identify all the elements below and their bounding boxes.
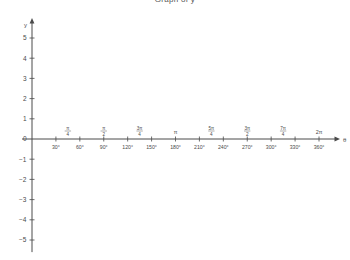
x-axis-degree-label: 210° <box>194 144 205 150</box>
x-axis-radian-denominator: 4 <box>282 132 285 137</box>
x-axis-degree-label: 300° <box>266 144 277 150</box>
y-axis-tick-label: 5 <box>23 34 27 41</box>
y-axis-tick-label: 3 <box>23 75 27 82</box>
x-axis-radian-numerator: 3π <box>137 126 143 131</box>
x-axis-radian-numerator: 7π <box>280 126 286 131</box>
y-axis-tick-label: 1 <box>23 115 27 122</box>
x-axis-degree-label: 240° <box>218 144 229 150</box>
y-axis-tick-label: −2 <box>19 176 27 183</box>
x-axis-radian-label: π <box>174 129 178 135</box>
x-axis-degree-label: 330° <box>290 144 301 150</box>
y-axis-tick-label: −5 <box>19 236 27 243</box>
x-axis-radian-denominator: 2 <box>102 132 105 137</box>
x-axis-degree-label: 270° <box>242 144 253 150</box>
x-axis-degree-label: 180° <box>170 144 181 150</box>
x-axis-degree-label: 360° <box>314 144 325 150</box>
x-axis-degree-label: 30° <box>52 144 60 150</box>
x-axis-radian-numerator: π <box>102 126 105 131</box>
x-axis-name-label: θ <box>343 137 347 143</box>
x-axis-degree-label: 90° <box>100 144 108 150</box>
x-axis-degree-label: 150° <box>146 144 157 150</box>
x-axis-radian-numerator: π <box>66 126 69 131</box>
axes-group <box>22 18 340 252</box>
y-axis-tick-label: 4 <box>23 55 27 62</box>
y-axis-tick-label: −3 <box>19 196 27 203</box>
x-axis-radian-numerator: 5π <box>209 126 215 131</box>
x-axis-radian-denominator: 4 <box>210 132 213 137</box>
axis-name-labels-group: yθ <box>24 22 347 143</box>
y-axis-tick-label: −1 <box>19 156 27 163</box>
y-axis-tick-label: 0 <box>23 135 27 142</box>
x-axis-degree-label: 60° <box>76 144 84 150</box>
trigonometric-axes-plot: 543210−1−2−3−4−5 30°60°90°120°150°180°21… <box>0 0 350 260</box>
x-axis-radian-numerator: 3π <box>244 126 250 131</box>
y-axis-tick-label: −4 <box>19 216 27 223</box>
x-axis-radian-label: 2π <box>316 129 323 135</box>
x-axis-degree-label: 120° <box>122 144 133 150</box>
y-axis-arrowhead <box>30 18 35 24</box>
x-axis-radian-labels-group: π4π23π4π5π43π27π42π <box>65 126 323 137</box>
y-axis-name-label: y <box>24 22 27 28</box>
x-axis-radian-denominator: 2 <box>246 132 249 137</box>
x-axis-radian-denominator: 4 <box>67 132 70 137</box>
y-axis-tick-label: 2 <box>23 95 27 102</box>
x-axis-radian-denominator: 4 <box>138 132 141 137</box>
x-axis-arrowhead <box>335 137 341 142</box>
